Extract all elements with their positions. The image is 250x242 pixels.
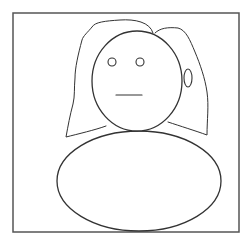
ear bbox=[184, 69, 192, 87]
person-drawing bbox=[0, 0, 250, 242]
drawing-canvas: Simple line drawing of a person with lon… bbox=[0, 0, 250, 242]
body-oval bbox=[57, 131, 221, 231]
head-circle bbox=[92, 31, 182, 131]
